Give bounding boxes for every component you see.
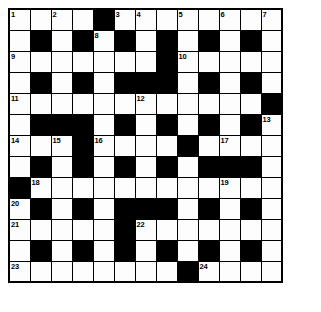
- crossword-cell[interactable]: [93, 114, 114, 135]
- crossword-cell[interactable]: [135, 240, 156, 261]
- crossword-cell[interactable]: [177, 72, 198, 93]
- crossword-cell[interactable]: 19: [219, 177, 240, 198]
- crossword-cell[interactable]: [72, 177, 93, 198]
- crossword-cell[interactable]: [114, 261, 135, 282]
- crossword-cell[interactable]: [93, 72, 114, 93]
- crossword-cell[interactable]: [9, 240, 30, 261]
- crossword-cell[interactable]: [30, 93, 51, 114]
- crossword-cell[interactable]: [72, 219, 93, 240]
- crossword-cell[interactable]: [261, 156, 282, 177]
- crossword-cell[interactable]: 5: [177, 9, 198, 30]
- crossword-cell[interactable]: 21: [9, 219, 30, 240]
- crossword-cell[interactable]: [9, 156, 30, 177]
- crossword-cell[interactable]: [219, 261, 240, 282]
- crossword-cell[interactable]: [30, 261, 51, 282]
- crossword-cell[interactable]: [156, 261, 177, 282]
- crossword-cell[interactable]: [51, 30, 72, 51]
- crossword-cell[interactable]: [30, 51, 51, 72]
- crossword-cell[interactable]: [93, 219, 114, 240]
- crossword-cell[interactable]: [177, 198, 198, 219]
- crossword-cell[interactable]: [72, 261, 93, 282]
- crossword-cell[interactable]: [51, 177, 72, 198]
- crossword-cell[interactable]: 13: [261, 114, 282, 135]
- crossword-cell[interactable]: 7: [261, 9, 282, 30]
- crossword-cell[interactable]: [240, 93, 261, 114]
- crossword-cell[interactable]: 6: [219, 9, 240, 30]
- crossword-cell[interactable]: 16: [93, 135, 114, 156]
- crossword-cell[interactable]: [51, 240, 72, 261]
- crossword-cell[interactable]: [156, 93, 177, 114]
- crossword-cell[interactable]: [156, 9, 177, 30]
- crossword-cell[interactable]: [9, 72, 30, 93]
- crossword-cell[interactable]: [219, 30, 240, 51]
- crossword-cell[interactable]: [51, 93, 72, 114]
- crossword-cell[interactable]: [219, 72, 240, 93]
- crossword-cell[interactable]: [219, 198, 240, 219]
- crossword-cell[interactable]: [219, 114, 240, 135]
- crossword-cell[interactable]: [261, 177, 282, 198]
- crossword-cell[interactable]: 12: [135, 93, 156, 114]
- crossword-cell[interactable]: [261, 72, 282, 93]
- crossword-cell[interactable]: [156, 219, 177, 240]
- crossword-cell[interactable]: [198, 51, 219, 72]
- crossword-cell[interactable]: [261, 198, 282, 219]
- crossword-cell[interactable]: [72, 9, 93, 30]
- crossword-grid[interactable]: 123456789101112131415161718192021222324: [8, 8, 283, 283]
- crossword-cell[interactable]: [198, 93, 219, 114]
- crossword-cell[interactable]: [240, 51, 261, 72]
- crossword-cell[interactable]: [30, 219, 51, 240]
- crossword-cell[interactable]: 4: [135, 9, 156, 30]
- crossword-cell[interactable]: [93, 177, 114, 198]
- crossword-cell[interactable]: 17: [219, 135, 240, 156]
- crossword-cell[interactable]: 1: [9, 9, 30, 30]
- crossword-cell[interactable]: [198, 219, 219, 240]
- crossword-cell[interactable]: 18: [30, 177, 51, 198]
- crossword-cell[interactable]: [261, 30, 282, 51]
- crossword-cell[interactable]: [93, 156, 114, 177]
- crossword-cell[interactable]: [261, 219, 282, 240]
- crossword-cell[interactable]: [51, 198, 72, 219]
- crossword-cell[interactable]: [93, 51, 114, 72]
- crossword-cell[interactable]: 2: [51, 9, 72, 30]
- crossword-cell[interactable]: [30, 9, 51, 30]
- crossword-cell[interactable]: [135, 177, 156, 198]
- crossword-cell[interactable]: 23: [9, 261, 30, 282]
- crossword-cell[interactable]: [177, 93, 198, 114]
- crossword-cell[interactable]: [135, 156, 156, 177]
- crossword-cell[interactable]: [261, 51, 282, 72]
- crossword-cell[interactable]: [135, 51, 156, 72]
- crossword-cell[interactable]: [135, 114, 156, 135]
- crossword-cell[interactable]: [261, 135, 282, 156]
- crossword-cell[interactable]: 24: [198, 261, 219, 282]
- crossword-cell[interactable]: [51, 219, 72, 240]
- crossword-cell[interactable]: [51, 72, 72, 93]
- crossword-cell[interactable]: [135, 261, 156, 282]
- crossword-cell[interactable]: [72, 51, 93, 72]
- crossword-cell[interactable]: [240, 135, 261, 156]
- crossword-cell[interactable]: [156, 135, 177, 156]
- crossword-cell[interactable]: [240, 177, 261, 198]
- crossword-cell[interactable]: [177, 219, 198, 240]
- crossword-cell[interactable]: [198, 9, 219, 30]
- crossword-cell[interactable]: [198, 177, 219, 198]
- crossword-cell[interactable]: [156, 177, 177, 198]
- crossword-cell[interactable]: 8: [93, 30, 114, 51]
- crossword-cell[interactable]: [30, 135, 51, 156]
- crossword-cell[interactable]: [114, 177, 135, 198]
- crossword-cell[interactable]: [9, 114, 30, 135]
- crossword-cell[interactable]: [198, 135, 219, 156]
- crossword-cell[interactable]: [177, 156, 198, 177]
- crossword-cell[interactable]: [261, 240, 282, 261]
- crossword-cell[interactable]: [240, 9, 261, 30]
- crossword-cell[interactable]: [261, 261, 282, 282]
- crossword-cell[interactable]: [93, 198, 114, 219]
- crossword-cell[interactable]: [177, 30, 198, 51]
- crossword-cell[interactable]: 22: [135, 219, 156, 240]
- crossword-cell[interactable]: [51, 51, 72, 72]
- crossword-cell[interactable]: 11: [9, 93, 30, 114]
- crossword-cell[interactable]: [135, 135, 156, 156]
- crossword-cell[interactable]: 3: [114, 9, 135, 30]
- crossword-cell[interactable]: [93, 93, 114, 114]
- crossword-cell[interactable]: 15: [51, 135, 72, 156]
- crossword-cell[interactable]: [114, 135, 135, 156]
